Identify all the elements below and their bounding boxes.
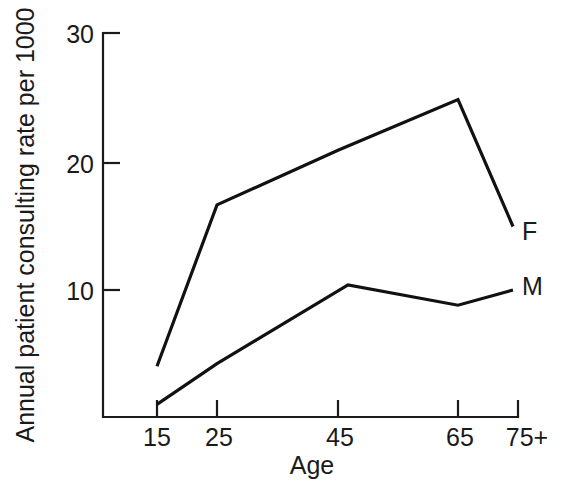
x-tick-label-75plus: 75+ <box>506 423 548 451</box>
series-label-female: F <box>522 217 537 245</box>
y-tick-label-20: 20 <box>66 150 94 178</box>
chart-background <box>0 0 572 493</box>
line-chart: 30 20 10 15 25 45 65 75+ Age Annual pati… <box>0 0 572 493</box>
x-tick-label-65: 65 <box>446 423 474 451</box>
chart-canvas: 30 20 10 15 25 45 65 75+ Age Annual pati… <box>0 0 572 493</box>
x-tick-label-15: 15 <box>143 423 171 451</box>
x-tick-label-25: 25 <box>205 423 233 451</box>
y-axis-title: Annual patient consulting rate per 1000 <box>11 7 39 442</box>
y-tick-label-10: 10 <box>66 277 94 305</box>
x-tick-label-45: 45 <box>326 423 354 451</box>
x-axis-title: Age <box>290 451 334 479</box>
series-label-male: M <box>522 272 543 300</box>
y-tick-label-30: 30 <box>66 20 94 48</box>
